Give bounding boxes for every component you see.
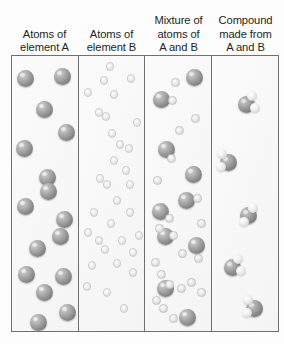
compound-molecule — [236, 202, 266, 230]
atom-b — [178, 249, 187, 258]
atom-a — [17, 70, 34, 87]
atom-a — [59, 304, 76, 321]
atom-b — [125, 144, 134, 153]
atom-a — [58, 124, 75, 141]
atom-b — [95, 236, 104, 245]
header-line: element A — [20, 41, 69, 54]
atom-b — [151, 258, 160, 267]
atom-b — [133, 118, 142, 127]
header-line: Compound — [219, 14, 273, 27]
atom-a — [36, 101, 53, 118]
header-compound-made-from-a-and-b: Compound made from A and B — [212, 0, 279, 56]
atom-b — [100, 76, 109, 85]
atom-b — [157, 270, 166, 279]
atom-a — [55, 268, 72, 285]
atom-b — [83, 282, 92, 291]
header-line: A and B — [159, 41, 198, 54]
atom-b — [126, 180, 135, 189]
atom-b — [194, 254, 203, 263]
atom-a — [54, 68, 71, 85]
atom-b — [84, 228, 93, 237]
header-line: Atoms of — [23, 28, 66, 41]
atom-b — [247, 91, 257, 101]
atom-b — [167, 154, 176, 163]
header-line: element B — [87, 41, 136, 54]
atom-b — [108, 129, 117, 138]
header-mixture-of-atoms-of-a-and-b: Mixture of atoms of A and B — [145, 0, 212, 56]
atom-a — [40, 183, 57, 200]
compound-molecule — [242, 295, 272, 323]
atom-b — [127, 74, 136, 83]
atom-b — [197, 219, 206, 228]
atom-b — [122, 166, 131, 175]
atom-b — [129, 248, 138, 257]
atom-b — [248, 203, 258, 213]
atom-a — [18, 266, 35, 283]
atom-b — [168, 96, 177, 105]
header-line: Mixture of — [154, 14, 202, 27]
atom-b — [165, 214, 174, 223]
atom-b — [110, 90, 119, 99]
atom-b — [106, 62, 115, 71]
panel-mixture-of-a-and-b — [145, 56, 212, 331]
atom-a — [56, 211, 73, 228]
header-line: Atoms of — [90, 28, 133, 41]
atom-b — [103, 288, 112, 297]
atom-b — [135, 231, 144, 240]
atom-b — [113, 196, 122, 205]
atom-b — [90, 208, 99, 217]
compound-molecule — [220, 254, 250, 282]
atom-b — [175, 126, 184, 135]
atom-b — [107, 219, 116, 228]
atom-b — [197, 288, 206, 297]
atom-a — [29, 240, 46, 257]
atom-b — [169, 314, 178, 323]
atom-b — [242, 308, 252, 318]
atom-b — [88, 261, 97, 270]
atom-b — [243, 295, 253, 305]
atom-b — [155, 224, 164, 233]
header-atoms-of-element-b: Atoms of element B — [78, 0, 145, 56]
atom-a — [188, 237, 205, 254]
header-line: atoms of — [157, 28, 199, 41]
header-line: made from — [219, 28, 272, 41]
atom-b — [84, 88, 93, 97]
atom-a — [52, 228, 69, 245]
header-atoms-of-element-a: Atoms of element A — [11, 0, 78, 56]
atom-b — [101, 245, 110, 254]
atom-b — [236, 266, 246, 276]
atom-b — [191, 114, 200, 123]
atom-b — [102, 112, 111, 121]
atom-a — [36, 284, 53, 301]
panels-grid — [11, 55, 279, 332]
atoms-mixture-compound-figure: Atoms of element A Atoms of element B Mi… — [0, 0, 284, 344]
atom-b — [216, 162, 226, 172]
atom-a — [30, 314, 47, 331]
atom-b — [113, 259, 122, 268]
atom-a — [186, 69, 203, 86]
atom-b — [159, 304, 168, 313]
atom-b — [153, 176, 162, 185]
atom-b — [239, 217, 249, 227]
atom-b — [118, 236, 127, 245]
atom-b — [171, 78, 180, 87]
atom-b — [126, 208, 135, 217]
atom-b — [187, 278, 196, 287]
atom-b — [165, 280, 174, 289]
atom-b — [193, 194, 202, 203]
atom-b — [129, 268, 138, 277]
atom-a — [185, 166, 202, 183]
atom-a — [16, 140, 33, 157]
panel-compound-of-a-and-b — [212, 56, 279, 331]
atom-a — [17, 198, 34, 215]
atom-b — [103, 180, 112, 189]
compound-molecule — [216, 149, 246, 177]
header-line: A and B — [226, 41, 265, 54]
panel-atoms-of-element-a — [12, 56, 79, 331]
atom-b — [152, 296, 161, 305]
atom-b — [120, 304, 129, 313]
atom-b — [110, 156, 119, 165]
compound-molecule — [234, 91, 264, 119]
atom-b — [250, 103, 260, 113]
panel-headers-row: Atoms of element A Atoms of element B Mi… — [11, 0, 279, 56]
